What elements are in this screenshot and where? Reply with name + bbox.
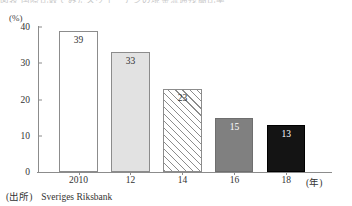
bar-2010: 39 bbox=[59, 31, 97, 172]
bar-value-label: 15 bbox=[216, 122, 252, 133]
x-tick-mark bbox=[130, 172, 131, 175]
x-tick-mark bbox=[286, 172, 287, 175]
x-tick-label: 2010 bbox=[69, 175, 88, 185]
x-tick-label: 16 bbox=[230, 175, 240, 185]
x-tick-label: 14 bbox=[178, 175, 188, 185]
figure-container: 図表 国際比較でみたスウェーデンの現金流通残高比率 (%) 010203040 … bbox=[0, 0, 352, 206]
bar-value-label: 13 bbox=[268, 129, 304, 140]
y-tick-label: 0 bbox=[8, 167, 30, 177]
bar-14: 23 bbox=[163, 89, 201, 172]
y-tick-label: 20 bbox=[8, 95, 30, 105]
bar-18: 13 bbox=[267, 125, 305, 172]
bar-value-label: 33 bbox=[112, 56, 148, 67]
y-tick-label: 10 bbox=[8, 131, 30, 141]
bar-16: 15 bbox=[215, 118, 253, 172]
x-axis-line bbox=[37, 172, 332, 173]
x-tick-mark bbox=[234, 172, 235, 175]
bar-value-label: 39 bbox=[60, 35, 96, 46]
x-tick-mark bbox=[182, 172, 183, 175]
plot-area: 3933231513 bbox=[38, 27, 330, 172]
source-text: Sveriges Riksbank bbox=[41, 192, 112, 202]
y-tick-label: 40 bbox=[8, 22, 30, 32]
bar-value-label: 23 bbox=[164, 93, 200, 104]
figure-title-cutoff: 図表 国際比較でみたスウェーデンの現金流通残高比率 bbox=[0, 0, 352, 3]
source-label: (出所) bbox=[6, 192, 32, 202]
y-tick-label: 30 bbox=[8, 58, 30, 68]
x-tick-mark bbox=[79, 172, 80, 175]
bar-12: 33 bbox=[111, 52, 149, 172]
x-tick-label: 12 bbox=[126, 175, 136, 185]
x-axis-unit-label: (年) bbox=[306, 175, 322, 189]
source-note: (出所)Sveriges Riksbank bbox=[6, 189, 112, 203]
x-tick-label: 18 bbox=[282, 175, 292, 185]
